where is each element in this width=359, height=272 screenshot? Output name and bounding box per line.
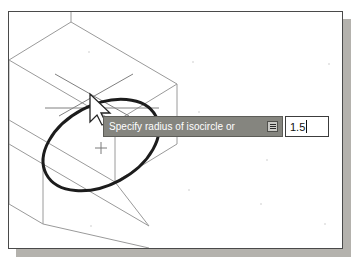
radius-input-value: 1.5 [290, 121, 305, 133]
scan-speckles [88, 51, 330, 227]
block-lower-bottom-edge [43, 224, 149, 248]
dynamic-input-tooltip[interactable]: Specify radius of isocircle or 1.5 [103, 116, 329, 137]
block-edge-front-right [115, 182, 149, 226]
block-edge-front-lower [9, 120, 115, 182]
screenshot-root: Specify radius of isocircle or 1.5 [0, 0, 359, 272]
prompt-label: Specify radius of isocircle or [109, 121, 263, 132]
radius-input[interactable]: 1.5 [285, 116, 329, 137]
center-marker [95, 142, 107, 154]
options-expand-icon[interactable] [267, 121, 278, 132]
block-lower-left-face [9, 144, 43, 224]
dynamic-input-prompt: Specify radius of isocircle or [103, 116, 283, 137]
text-caret [306, 120, 307, 133]
expand-glyph [270, 124, 276, 130]
